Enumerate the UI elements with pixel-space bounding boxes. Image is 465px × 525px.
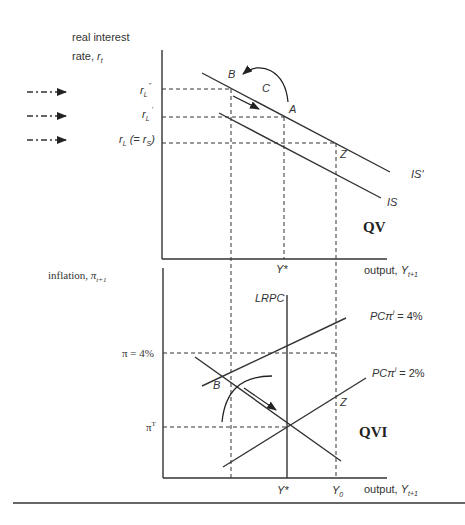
pc-2pct-label: PCπi = 2% <box>372 366 425 379</box>
svg-text:rate, rt: rate, rt <box>72 50 104 64</box>
side-arrows <box>27 92 66 140</box>
bottom-panel: inflation, πt+1 π = 4% πT LRPC PCπi = 4%… <box>48 268 425 498</box>
y-axis-label: real interest <box>72 31 129 43</box>
pc-4pct-label: PCπi = 4% <box>370 309 423 322</box>
y-axis-label: inflation, πt+1 <box>48 269 106 284</box>
point-c-label: C <box>262 82 270 94</box>
is-curve <box>219 113 381 198</box>
quadrant-label-qv: QV <box>363 219 386 235</box>
point-z-label: Z <box>339 396 348 408</box>
movement-arrow-icon <box>233 96 259 109</box>
curved-arc-icon <box>222 376 272 422</box>
tick-y-star: Y* <box>277 484 289 496</box>
tick-pi-4pct: π = 4% <box>122 347 154 359</box>
point-b-label: B <box>213 379 220 391</box>
tick-pi-target: πT <box>146 420 157 433</box>
point-b-label: B <box>228 68 235 80</box>
is-prime-label: IS' <box>411 168 424 180</box>
tick-y0: Y0 <box>332 484 343 498</box>
x-axis-label: output, Yt+1 <box>364 483 418 497</box>
top-panel: real interest rate, rt rL" rL' rL (= rS)… <box>72 31 424 478</box>
tick-y-star: Y* <box>276 263 288 275</box>
quadrant-label-qvi: QVI <box>359 424 388 440</box>
downward-curve <box>195 357 341 461</box>
movement-arrow-icon <box>244 388 276 410</box>
tick-rl-double-prime: rL" <box>140 82 152 98</box>
is-label: IS <box>387 196 398 208</box>
lrpc-label: LRPC <box>255 292 284 304</box>
point-z-label: Z <box>339 148 348 160</box>
tick-rl-prime: rL' <box>142 106 154 122</box>
is-prime-curve <box>202 73 390 172</box>
is-pc-diagram: real interest rate, rt rL" rL' rL (= rS)… <box>0 0 465 525</box>
pc-2pct-curve <box>223 378 366 467</box>
tick-rl-equals-rs: rL (= rS) <box>119 133 155 147</box>
x-axis-label: output, Yt+1 <box>364 264 418 278</box>
point-a-label: A <box>288 103 296 115</box>
pc-4pct-curve <box>202 318 346 386</box>
